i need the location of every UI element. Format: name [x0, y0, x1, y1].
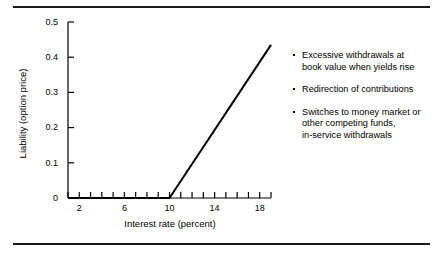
x-tick-label-18: 18: [248, 203, 272, 213]
bullet-line: book value when yields rise: [302, 62, 443, 74]
y-axis-ticks: [68, 22, 74, 198]
figure-container: 0.5 0.4 0.3 0.2 0.1 0 2 6 10 14 18 Liabi…: [0, 0, 443, 259]
bullet-dot-icon: [293, 54, 295, 56]
top-divider-rule: [13, 6, 430, 8]
y-tick-label-0.5: 0.5: [32, 17, 58, 27]
x-axis-title: Interest rate (percent): [56, 218, 284, 229]
series-line-liability: [68, 45, 271, 198]
bullet-dot-icon: [293, 111, 295, 113]
notes-bullet-list: Excessive withdrawals at book value when…: [293, 50, 443, 152]
bullet-line: other competing funds,: [302, 118, 443, 130]
y-tick-label-0.1: 0.1: [32, 158, 58, 168]
y-tick-label-0.3: 0.3: [32, 87, 58, 97]
bullet-line: Excessive withdrawals at: [302, 50, 443, 62]
chart-plot-area: 0.5 0.4 0.3 0.2 0.1 0 2 6 10 14 18 Liabi…: [0, 12, 300, 244]
x-tick-label-14: 14: [203, 203, 227, 213]
y-axis-title: Liability (option price): [17, 49, 28, 179]
list-item: Redirection of contributions: [293, 84, 443, 96]
x-tick-label-2: 2: [67, 203, 91, 213]
list-item: Switches to money market or other compet…: [293, 107, 443, 142]
x-tick-label-6: 6: [112, 203, 136, 213]
bullet-dot-icon: [293, 88, 295, 90]
y-tick-label-0.2: 0.2: [32, 122, 58, 132]
y-tick-label-0: 0: [32, 193, 58, 203]
bullet-line: in-service withdrawals: [302, 130, 443, 142]
x-tick-label-10: 10: [158, 203, 182, 213]
y-tick-label-0.4: 0.4: [32, 52, 58, 62]
bullet-line: Switches to money market or: [302, 107, 443, 119]
bottom-divider-rule: [13, 243, 430, 245]
bullet-line: Redirection of contributions: [302, 84, 443, 96]
list-item: Excessive withdrawals at book value when…: [293, 50, 443, 73]
